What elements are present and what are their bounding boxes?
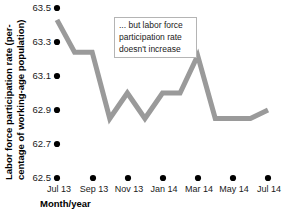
y-tick-dot (54, 5, 60, 11)
y-axis-title-line-1: Labor force participation rate (per- (3, 24, 14, 180)
line-chart: 63.5 63.3 63.1 62.9 62.7 62.5 Jul 13 Sep… (0, 0, 289, 224)
annotation-line-1: ... but labor force (119, 20, 183, 30)
x-tick-dot (230, 175, 236, 181)
x-tick-dot (90, 175, 96, 181)
x-tick-dot (160, 175, 166, 181)
y-axis-title-line-2: centage of working-age population) (15, 20, 26, 180)
y-tick-dot (54, 175, 60, 181)
y-axis-title: Labor force participation rate (per- cen… (3, 20, 26, 180)
chart-container: 63.5 63.3 63.1 62.9 62.7 62.5 Jul 13 Sep… (0, 0, 289, 224)
y-tick-label: 63.5 (33, 2, 52, 13)
x-tick-dot (265, 175, 271, 181)
x-axis-tick-labels: Jul 13 Sep 13 Nov 13 Jan 14 Mar 14 May 1… (47, 184, 281, 194)
x-tick-dot (195, 175, 201, 181)
x-axis-tick-dots (90, 175, 271, 181)
y-axis-tick-dots (54, 5, 60, 181)
y-tick-label: 62.7 (33, 138, 52, 149)
y-tick-dot (54, 39, 60, 45)
y-tick-label: 62.9 (33, 104, 52, 115)
x-tick-label: Jul 13 (47, 184, 71, 194)
annotation-callout: ... but labor force participation rate d… (115, 18, 197, 58)
x-tick-label: Jul 14 (257, 184, 281, 194)
annotation-line-2: participation rate (119, 32, 182, 42)
y-tick-dot (54, 141, 60, 147)
x-tick-label: Sep 13 (80, 184, 109, 194)
x-tick-dot (125, 175, 131, 181)
x-tick-label: Nov 13 (115, 184, 144, 194)
y-tick-label: 63.1 (33, 70, 52, 81)
y-tick-label: 63.3 (33, 36, 52, 47)
y-tick-dot (54, 107, 60, 113)
y-tick-dot (54, 73, 60, 79)
x-tick-label: May 14 (219, 184, 249, 194)
y-axis-tick-labels: 63.5 63.3 63.1 62.9 62.7 62.5 (33, 2, 52, 183)
x-axis-title: Month/year (40, 198, 91, 209)
y-tick-label: 62.5 (33, 172, 52, 183)
annotation-line-3: doesn't increase (119, 44, 181, 54)
x-tick-label: Jan 14 (150, 184, 177, 194)
x-tick-label: Mar 14 (185, 184, 213, 194)
